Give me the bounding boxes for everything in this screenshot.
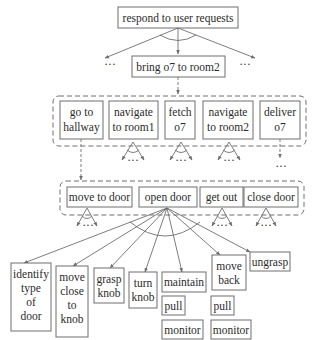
- level2-node-fetch-o7: fetch o7: [165, 101, 195, 139]
- svg-text:monitor: monitor: [164, 324, 201, 336]
- level2-fans: ··· ··· ··· ···: [122, 139, 287, 172]
- svg-text:···: ···: [82, 219, 94, 231]
- svg-text:move: move: [59, 271, 85, 283]
- level2-node-deliver-o7: deliver o7: [260, 101, 300, 139]
- ellipsis-left: ···: [104, 58, 116, 70]
- level3-node-get-out: get out: [200, 187, 243, 207]
- svg-text:get out: get out: [206, 191, 238, 204]
- svg-text:of: of: [26, 296, 36, 308]
- htn-diagram: respond to user requests ··· ··· bring o…: [0, 0, 312, 340]
- svg-text:go to: go to: [70, 106, 94, 119]
- svg-text:close door: close door: [247, 191, 295, 203]
- svg-text:knob: knob: [61, 313, 84, 325]
- level2-node-go-to-hallway: go to hallway: [60, 101, 103, 139]
- svg-text:o7: o7: [274, 121, 286, 133]
- leaf-maintain-pull: pull: [162, 296, 185, 315]
- svg-text:to: to: [68, 299, 77, 311]
- level3-node-move-to-door: move to door: [67, 187, 132, 207]
- svg-text:monitor: monitor: [213, 324, 250, 336]
- svg-text:maintain: maintain: [164, 276, 204, 288]
- level3-fans: ··· ··· ···: [77, 208, 276, 231]
- svg-text:knob: knob: [132, 291, 155, 303]
- svg-text:open door: open door: [145, 191, 191, 204]
- leaf-turn-knob: turn knob: [129, 272, 157, 308]
- svg-text:hallway: hallway: [63, 121, 100, 134]
- ellipsis-right: ···: [239, 58, 251, 70]
- leaf-grasp-knob: grasp knob: [94, 268, 124, 303]
- svg-text:···: ···: [223, 154, 235, 166]
- svg-text:o7: o7: [174, 121, 186, 133]
- leaf-move-back: move back: [212, 255, 246, 290]
- root-node: respond to user requests: [118, 7, 238, 28]
- level2-node-navigate-room2: navigate to room2: [203, 101, 253, 139]
- svg-text:···: ···: [127, 154, 139, 166]
- task-node: bring o7 to room2: [132, 56, 225, 77]
- level3-node-open-door: open door: [139, 187, 197, 207]
- svg-text:to room1: to room1: [113, 121, 155, 133]
- level2-node-navigate-room1: navigate to room1: [109, 101, 158, 139]
- svg-text:navigate: navigate: [114, 106, 153, 119]
- svg-text:identify: identify: [13, 268, 49, 281]
- leaf-move-close-to-knob: move close to knob: [56, 266, 88, 337]
- svg-text:pull: pull: [214, 300, 232, 313]
- svg-text:grasp: grasp: [97, 273, 122, 286]
- leaf-move-back-monitor: monitor: [211, 320, 251, 339]
- svg-text:navigate: navigate: [209, 106, 248, 119]
- svg-text:···: ···: [175, 154, 187, 166]
- leaf-move-back-pull: pull: [211, 296, 234, 315]
- svg-text:deliver: deliver: [264, 106, 296, 118]
- svg-text:···: ···: [216, 219, 228, 231]
- svg-text:to room2: to room2: [207, 121, 249, 133]
- task-label: bring o7 to room2: [136, 61, 220, 74]
- svg-text:pull: pull: [165, 300, 183, 313]
- svg-text:type: type: [21, 282, 41, 295]
- level3-node-close-door: close door: [244, 187, 298, 207]
- leaf-maintain: maintain: [162, 272, 206, 292]
- svg-text:···: ···: [275, 160, 287, 172]
- leaf-ungrasp: ungrasp: [250, 252, 290, 271]
- svg-text:fetch: fetch: [169, 106, 192, 118]
- svg-text:knob: knob: [98, 287, 121, 299]
- svg-text:move: move: [216, 260, 242, 272]
- svg-text:back: back: [218, 274, 240, 286]
- svg-text:move to door: move to door: [69, 191, 130, 203]
- leaf-maintain-monitor: monitor: [162, 320, 203, 339]
- svg-text:close: close: [60, 285, 84, 297]
- svg-text:door: door: [20, 310, 41, 322]
- svg-text:···: ···: [260, 219, 272, 231]
- root-label: respond to user requests: [123, 12, 234, 25]
- svg-text:ungrasp: ungrasp: [252, 256, 289, 269]
- svg-text:turn: turn: [134, 277, 153, 289]
- leaf-identify-type-of-door: identify type of door: [11, 263, 51, 331]
